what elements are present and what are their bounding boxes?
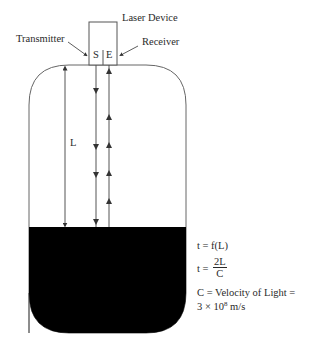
liquid-fill bbox=[29, 227, 186, 333]
up-arrow-icon bbox=[106, 68, 112, 74]
receiver-label: Receiver bbox=[142, 36, 179, 47]
receiver-leader bbox=[121, 46, 138, 55]
down-arrow-icon bbox=[93, 144, 99, 150]
down-arrow-icon bbox=[93, 172, 99, 178]
equation-velocity-line1: C = Velocity of Light = bbox=[197, 287, 295, 299]
down-arrow-icon bbox=[93, 88, 99, 94]
equation-t-f-l: t = f(L) bbox=[197, 240, 228, 252]
transmitter-leader bbox=[68, 42, 86, 55]
equation-t-lhs: t = bbox=[197, 263, 208, 275]
source-marker: S bbox=[93, 49, 99, 60]
up-arrow-icon bbox=[106, 170, 112, 176]
velocity-unit: m/s bbox=[227, 301, 245, 312]
up-arrow-icon bbox=[106, 198, 112, 204]
down-arrow-icon bbox=[93, 219, 99, 225]
distance-l-label: L bbox=[70, 137, 76, 148]
laser-device-label: Laser Device bbox=[122, 12, 178, 23]
fraction-denominator: C bbox=[216, 268, 223, 279]
fraction-numerator: 2L bbox=[213, 256, 227, 268]
velocity-coefficient: 3 × 10 bbox=[197, 301, 224, 312]
up-arrow-icon bbox=[106, 142, 112, 148]
transmitter-label: Transmitter bbox=[16, 33, 65, 44]
equation-velocity-line2: 3 × 108 m/s bbox=[197, 301, 245, 313]
emitter-marker: E bbox=[106, 49, 112, 60]
up-arrow-icon bbox=[106, 114, 112, 120]
equation-fraction: 2L C bbox=[213, 256, 227, 279]
